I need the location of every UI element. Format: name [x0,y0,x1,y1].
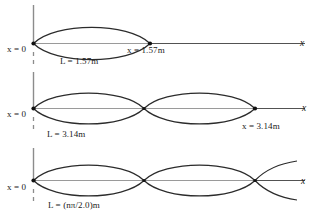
panel-n2-end-label: x = 3.14m [242,122,280,131]
panel-n2-length-label: L = 3.14m [47,130,85,139]
standing-wave-figure: x = 0 L = 1.57m x = 1.57m x x = 0 L = 3.… [0,0,313,220]
panel-n-general-node-middle [142,179,145,182]
panel-n2-axis-label: x [302,104,306,114]
panel-n2-origin-label: x = 0 [7,110,26,119]
panel-n2-wave-upper-1 [34,93,145,108]
panel-n-general-wave-lower-3 [255,181,297,201]
panel-n-general-node-right [253,179,256,182]
panel-n1-origin-label: x = 0 [7,45,26,54]
panel-n2-wave-lower-2 [144,109,255,124]
panel-n1-node-left [31,41,35,45]
panel-n2-node-middle [142,107,145,110]
panel-n-general-wave-lower-2 [144,181,255,196]
panel-n1-length-label: L = 1.57m [60,57,98,66]
panel-n-general-axis-label: x [301,177,305,187]
panel-n-general-wave-upper-3 [255,161,297,181]
panel-n-general-wave-upper-2 [144,165,255,180]
panel-n-general-length-label: L = (nπ/2.0)m [48,201,100,210]
panel-n1-end-label: x = 1.57m [127,46,165,55]
panel-n2-node-left [31,106,35,110]
panel-n-general-graphics [31,148,305,205]
panel-n1-wave-upper [34,27,151,43]
panel-n2-wave-upper-2 [144,93,255,108]
panel-n-general-origin-label: x = 0 [7,183,26,192]
wave-diagram-svg [0,0,313,220]
panel-n-general-wave-upper-1 [34,165,145,180]
panel-n1-axis-label: x [300,39,304,49]
panel-n-general-node-left [31,178,35,182]
panel-n2-node-right [253,106,257,110]
panel-n-general-wave-lower-1 [34,181,145,196]
panel-n2-wave-lower-1 [34,109,145,124]
